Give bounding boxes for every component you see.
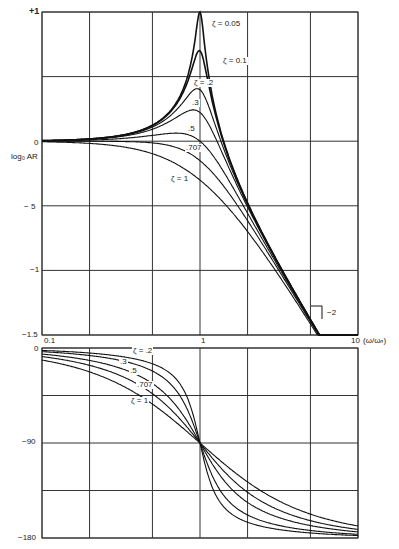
phase-tick-zero: 0 [34, 345, 38, 353]
slope-label: −2 [327, 309, 336, 317]
phase-label-zeta-0-2: ζ = .2 [132, 347, 153, 355]
slope-marker [311, 306, 322, 319]
curve-label-zeta-0-5: .5 [187, 125, 196, 133]
y-tick-minus-half: − 5 [24, 203, 35, 211]
y-tick-zero: 0 [34, 139, 38, 147]
curve-label-zeta-0-707: .707 [185, 144, 203, 152]
x-tick-10: 10 [351, 337, 360, 345]
y-tick-minus1-5: −1.5 [22, 331, 38, 339]
curve-label-zeta-0-1: ζ = 0.1 [222, 57, 248, 65]
phase-tick-minus180: −180 [18, 534, 36, 542]
phase-label-zeta-0-5: .5 [129, 367, 138, 375]
phase-label-zeta-1: ζ = 1 [130, 397, 149, 405]
y-tick-minus1: −1 [30, 266, 39, 274]
phase-label-zeta-0-707: .707 [136, 381, 154, 389]
curve-label-zeta-1: ζ = 1 [170, 175, 189, 183]
magnitude-grid [42, 12, 358, 335]
x-tick-0-1: 0.1 [44, 337, 55, 345]
curve-label-zeta-0-05: ζ = 0.05 [211, 20, 241, 28]
y-tick-plus1: +1 [29, 7, 39, 16]
y-axis-label: log₀ AR [11, 153, 38, 161]
x-tick-1: 1 [201, 337, 205, 345]
phase-label-zeta-0-3: .3 [119, 358, 128, 366]
phase-tick-minus90: −90 [22, 438, 36, 446]
curve-label-zeta-0-2: ζ = .2 [193, 79, 214, 87]
x-axis-label: (ω/ωₙ) [363, 337, 386, 345]
curve-label-zeta-0-3: .3 [191, 99, 200, 107]
